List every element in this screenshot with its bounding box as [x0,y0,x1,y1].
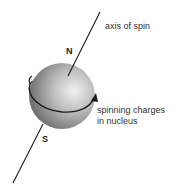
charges-label-line1: spinning charges [97,105,165,115]
north-pole-label: N [66,46,73,56]
nucleus-diagram [0,0,179,192]
nucleus-sphere [29,63,95,129]
spin-axis-upper [68,12,100,76]
axis-label: axis of spin [105,21,150,31]
charges-label-line2: in nucleus [97,116,138,126]
spin-axis-lower [13,124,43,183]
south-pole-label: S [42,134,48,144]
